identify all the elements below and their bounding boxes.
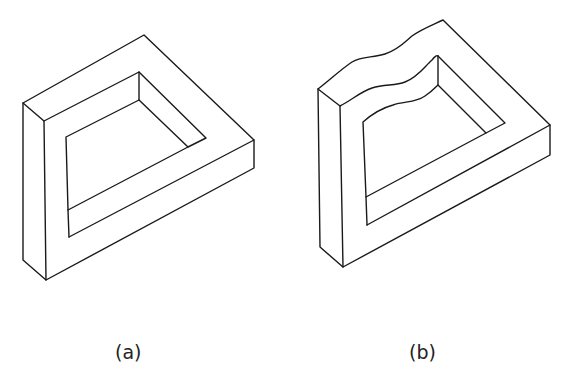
panel-label-b: (b) [409,341,436,363]
figure-canvas [0,0,566,389]
impossible-frame-a [23,35,254,280]
panel-label-a: (a) [115,341,141,363]
impossible-frame-b [318,20,550,267]
